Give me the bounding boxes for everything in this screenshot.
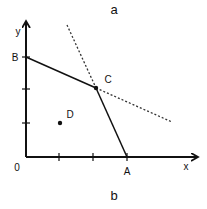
point-d-dot [58, 121, 62, 125]
origin-label: 0 [14, 162, 20, 173]
title-top: a [110, 2, 118, 17]
title-bottom: b [110, 188, 117, 203]
diagram-canvas: a y B C D 0 A x b [0, 0, 207, 209]
x-axis-label: x [184, 161, 189, 172]
point-c-label: C [104, 74, 111, 85]
dotted-line-lower [96, 88, 172, 122]
segment-b-c [26, 57, 96, 88]
y-axis-label: y [16, 26, 21, 37]
dotted-line-upper [67, 25, 96, 88]
point-c-dot [94, 86, 98, 90]
point-d-label: D [66, 109, 73, 120]
segment-c-a [96, 88, 127, 157]
point-b-label: B [12, 52, 19, 63]
point-a-label: A [124, 166, 131, 177]
